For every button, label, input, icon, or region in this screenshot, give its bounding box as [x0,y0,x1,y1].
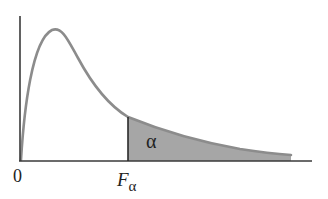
origin-label: 0 [13,166,22,187]
f-distribution-diagram [0,0,328,199]
critical-value-subscript: α [129,178,137,194]
critical-value-symbol: F [117,169,129,190]
area-label: α [146,130,156,153]
critical-value-label: Fα [117,169,136,195]
